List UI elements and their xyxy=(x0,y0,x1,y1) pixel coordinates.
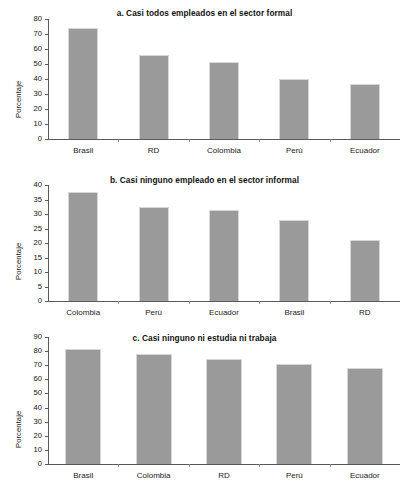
x-category-label: Colombia xyxy=(189,147,259,155)
y-tick-label: 80 xyxy=(14,15,42,23)
bar xyxy=(68,28,98,139)
y-tick-mark xyxy=(45,337,48,338)
y-axis-label-c: Porcentaje xyxy=(14,411,23,448)
x-category-label: RD xyxy=(118,147,188,155)
y-tick-mark xyxy=(45,408,48,409)
bar xyxy=(65,349,101,464)
y-tick-mark xyxy=(45,351,48,352)
bar-group-a xyxy=(48,19,400,139)
y-tick-mark xyxy=(45,139,48,140)
y-tick-mark xyxy=(45,272,48,273)
y-tick-label: 15 xyxy=(14,254,42,262)
x-tick-mark xyxy=(118,139,119,142)
y-tick-label: 40 xyxy=(14,75,42,83)
y-tick-mark xyxy=(45,94,48,95)
y-tick-mark xyxy=(45,450,48,451)
y-tick-label: 30 xyxy=(14,210,42,218)
x-tick-mark xyxy=(189,139,190,142)
figure-three-bar-charts: a. Casi todos empleados en el sector for… xyxy=(0,0,409,500)
y-tick-mark xyxy=(45,200,48,201)
bar xyxy=(136,354,172,464)
y-tick-mark xyxy=(45,393,48,394)
y-tick-mark xyxy=(45,229,48,230)
y-tick-mark xyxy=(45,422,48,423)
y-tick-label: 60 xyxy=(14,45,42,53)
y-tick-label: 0 xyxy=(14,460,42,468)
y-tick-label: 0 xyxy=(14,135,42,143)
x-category-label: Ecuador xyxy=(330,147,400,155)
y-tick-label: 20 xyxy=(14,105,42,113)
chart-panel-a: a. Casi todos empleados en el sector for… xyxy=(0,0,409,168)
y-tick-label: 20 xyxy=(14,239,42,247)
y-tick-mark xyxy=(45,124,48,125)
bar-group-c xyxy=(48,337,400,464)
chart-panel-b: b. Casi ninguno empleado en el sector in… xyxy=(0,168,409,326)
y-tick-label: 30 xyxy=(14,90,42,98)
y-tick-label: 10 xyxy=(14,120,42,128)
y-tick-label: 25 xyxy=(14,225,42,233)
x-category-label: Perú xyxy=(259,472,329,480)
y-tick-label: 50 xyxy=(14,60,42,68)
plot-area-b: 0510152025303540 ColombiaPerúEcuadorBras… xyxy=(48,185,400,301)
x-tick-mark xyxy=(118,301,119,304)
y-tick-label: 5 xyxy=(14,283,42,291)
bar xyxy=(68,192,98,301)
x-tick-mark xyxy=(259,301,260,304)
bar xyxy=(279,220,309,301)
x-category-label: RD xyxy=(189,472,259,480)
x-tick-mark xyxy=(330,464,331,467)
plot-area-c: 0102030405060708090 BrasilColombiaRDPerú… xyxy=(48,337,400,464)
bar xyxy=(139,207,169,301)
y-tick-mark xyxy=(45,243,48,244)
y-tick-label: 70 xyxy=(14,361,42,369)
chart-title-b: b. Casi ninguno empleado en el sector in… xyxy=(0,175,409,185)
x-category-label: Brasil xyxy=(259,309,329,317)
bar xyxy=(206,359,242,464)
y-tick-mark xyxy=(45,185,48,186)
x-axis-line-b xyxy=(48,301,400,302)
bar xyxy=(279,79,309,139)
chart-panel-c: c. Casi ninguno ni estudia ni trabaja Po… xyxy=(0,326,409,492)
bar xyxy=(350,240,380,301)
y-tick-label: 30 xyxy=(14,418,42,426)
bar-group-b xyxy=(48,185,400,301)
y-tick-label: 40 xyxy=(14,181,42,189)
bar xyxy=(209,210,239,301)
bar xyxy=(276,364,312,464)
x-category-label: Brasil xyxy=(48,147,118,155)
x-category-label: RD xyxy=(330,309,400,317)
y-tick-mark xyxy=(45,214,48,215)
y-tick-mark xyxy=(45,365,48,366)
x-tick-mark xyxy=(259,464,260,467)
bar xyxy=(209,62,239,139)
x-axis-line-a xyxy=(48,139,400,140)
y-tick-mark xyxy=(45,19,48,20)
x-tick-mark xyxy=(189,464,190,467)
bar xyxy=(347,368,383,464)
y-tick-mark xyxy=(45,49,48,50)
y-tick-mark xyxy=(45,436,48,437)
x-category-label: Ecuador xyxy=(189,309,259,317)
y-tick-label: 90 xyxy=(14,333,42,341)
y-tick-label: 10 xyxy=(14,268,42,276)
y-tick-mark xyxy=(45,34,48,35)
x-category-label: Ecuador xyxy=(330,472,400,480)
chart-title-a: a. Casi todos empleados en el sector for… xyxy=(0,8,409,18)
y-tick-label: 80 xyxy=(14,347,42,355)
y-tick-mark xyxy=(45,64,48,65)
y-tick-mark xyxy=(45,287,48,288)
x-tick-mark xyxy=(330,139,331,142)
y-tick-label: 50 xyxy=(14,389,42,397)
y-tick-label: 60 xyxy=(14,375,42,383)
y-tick-label: 0 xyxy=(14,297,42,305)
y-tick-mark xyxy=(45,79,48,80)
x-category-label: Colombia xyxy=(48,309,118,317)
x-axis-line-c xyxy=(48,464,400,465)
x-tick-mark xyxy=(189,301,190,304)
y-tick-label: 20 xyxy=(14,432,42,440)
x-tick-mark xyxy=(118,464,119,467)
x-tick-mark xyxy=(330,301,331,304)
x-category-label: Perú xyxy=(259,147,329,155)
bar xyxy=(350,84,380,139)
y-tick-label: 70 xyxy=(14,30,42,38)
